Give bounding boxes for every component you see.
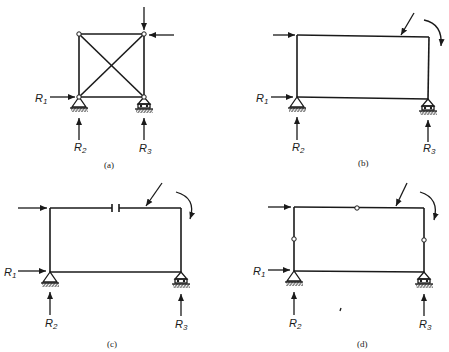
internal-hinge-icon xyxy=(355,206,359,210)
label-r3: R3 xyxy=(139,142,152,156)
label-r2: R2 xyxy=(74,141,87,155)
roller-support-icon xyxy=(419,99,437,115)
panel-c: R1 R2 R3 (c) xyxy=(4,183,192,349)
frame-members xyxy=(50,204,181,272)
caption-c: (c) xyxy=(107,339,117,349)
inclined-load-arrow-icon xyxy=(396,183,407,206)
moment-arrow-icon xyxy=(176,192,192,219)
panel-b: R1 R2 R3 (b) xyxy=(256,13,441,168)
label-r2: R2 xyxy=(45,317,58,331)
pin-support-icon xyxy=(285,271,303,286)
label-r3: R3 xyxy=(423,142,436,156)
panel-a: R1 R2 R3 (a) xyxy=(35,7,174,170)
moment-arrow-icon xyxy=(424,20,441,46)
pin-support-icon xyxy=(41,272,59,287)
caption-d: (d) xyxy=(357,339,368,349)
frame-members xyxy=(294,207,424,272)
label-r2: R2 xyxy=(289,317,302,331)
panel-d: R1 R2 R3 (d) xyxy=(253,183,435,349)
roller-support-icon xyxy=(172,272,190,288)
internal-hinge-icon xyxy=(292,237,296,241)
label-r1: R1 xyxy=(256,92,268,106)
truss-members xyxy=(79,34,144,97)
structural-diagrams: R1 R2 R3 (a) R1 R2 xyxy=(0,0,449,352)
caption-a: (a) xyxy=(104,160,114,170)
stray-mark xyxy=(340,308,341,311)
label-r3: R3 xyxy=(419,318,432,332)
frame-members xyxy=(297,35,429,99)
internal-hinge-icon xyxy=(422,238,426,242)
caption-b: (b) xyxy=(358,158,369,168)
joint-hinge-icon xyxy=(142,32,146,36)
moment-arrow-icon xyxy=(420,192,435,220)
label-r1: R1 xyxy=(253,265,265,279)
inclined-load-arrow-icon xyxy=(146,183,162,206)
roller-support-icon xyxy=(415,272,433,288)
label-r1: R1 xyxy=(35,92,47,106)
inclined-load-arrow-icon xyxy=(401,13,414,35)
pin-support-icon xyxy=(288,97,306,112)
label-r1: R1 xyxy=(4,266,16,280)
label-r2: R2 xyxy=(292,141,305,155)
joint-hinge-icon xyxy=(77,32,81,36)
label-r3: R3 xyxy=(175,318,188,332)
